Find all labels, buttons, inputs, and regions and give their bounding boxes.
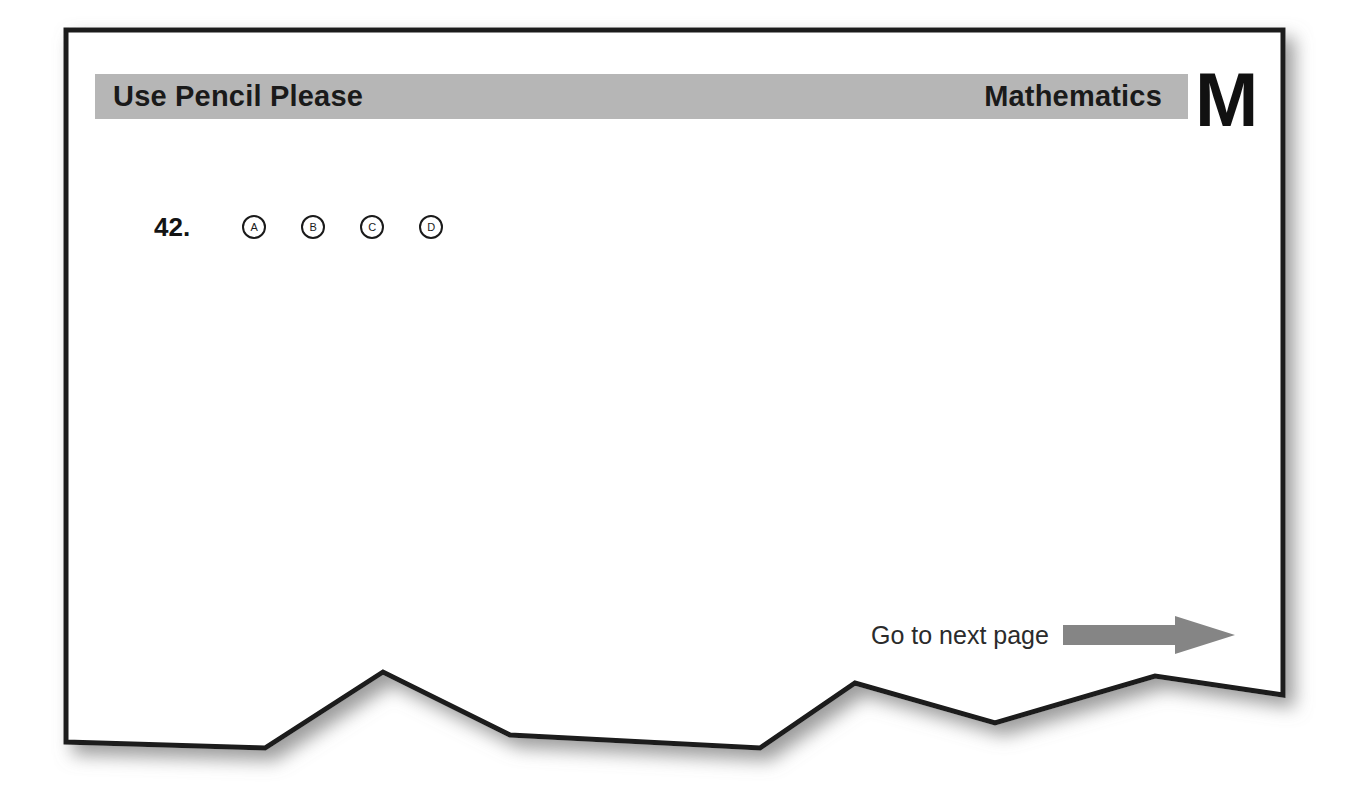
header-band: Use Pencil Please Mathematics [95, 74, 1188, 119]
answer-bubble-b-label: B [309, 222, 316, 233]
answer-bubble-a[interactable]: A [242, 215, 266, 239]
next-page-indicator: Go to next page [871, 618, 1235, 652]
question-number: 42. [154, 212, 190, 242]
question-row: 42. A B C D [154, 212, 443, 242]
answer-bubble-c-label: C [368, 222, 376, 233]
next-page-label: Go to next page [871, 618, 1049, 652]
subject-title: Mathematics [984, 79, 1162, 112]
answer-bubble-d[interactable]: D [419, 215, 443, 239]
sheet-content: Use Pencil Please Mathematics M 42. A B … [66, 30, 1283, 690]
answer-bubble-c[interactable]: C [360, 215, 384, 239]
answer-bubble-a-label: A [250, 222, 257, 233]
answer-bubble-group: A B C D [242, 215, 443, 239]
answer-sheet-page: Use Pencil Please Mathematics M 42. A B … [0, 0, 1354, 798]
answer-bubble-b[interactable]: B [301, 215, 325, 239]
right-arrow-icon [1063, 616, 1235, 654]
answer-bubble-d-label: D [427, 222, 435, 233]
pencil-instruction-label: Use Pencil Please [113, 79, 363, 112]
subject-letter-badge: M [1195, 62, 1257, 138]
